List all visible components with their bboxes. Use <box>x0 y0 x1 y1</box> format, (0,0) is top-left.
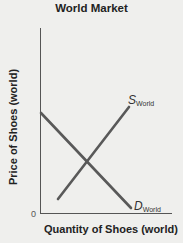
demand-curve <box>41 113 131 208</box>
origin-label: 0 <box>31 209 36 219</box>
demand-curve-label: DWorld <box>134 199 161 213</box>
x-axis-label: Quantity of Shoes (world) <box>44 223 178 235</box>
supply-curve-label: SWorld <box>128 93 154 107</box>
y-axis-label: Price of Shoes (world) <box>7 69 19 185</box>
supply-curve <box>58 107 129 199</box>
